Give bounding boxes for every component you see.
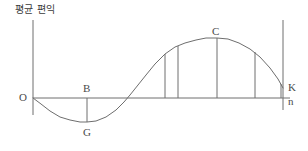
average-benefit-curve xyxy=(33,38,283,122)
label-point-k: K xyxy=(288,81,296,93)
label-point-n: n xyxy=(288,95,294,107)
label-point-g: G xyxy=(83,126,91,138)
figure-canvas: 평균 편익 O B G C K n xyxy=(0,0,308,151)
label-point-c: C xyxy=(212,25,219,37)
diagram-svg xyxy=(0,0,308,151)
label-point-b: B xyxy=(83,82,90,94)
y-axis-caption: 평균 편익 xyxy=(15,4,55,16)
axes-group xyxy=(33,20,290,115)
label-origin-o: O xyxy=(19,91,27,103)
